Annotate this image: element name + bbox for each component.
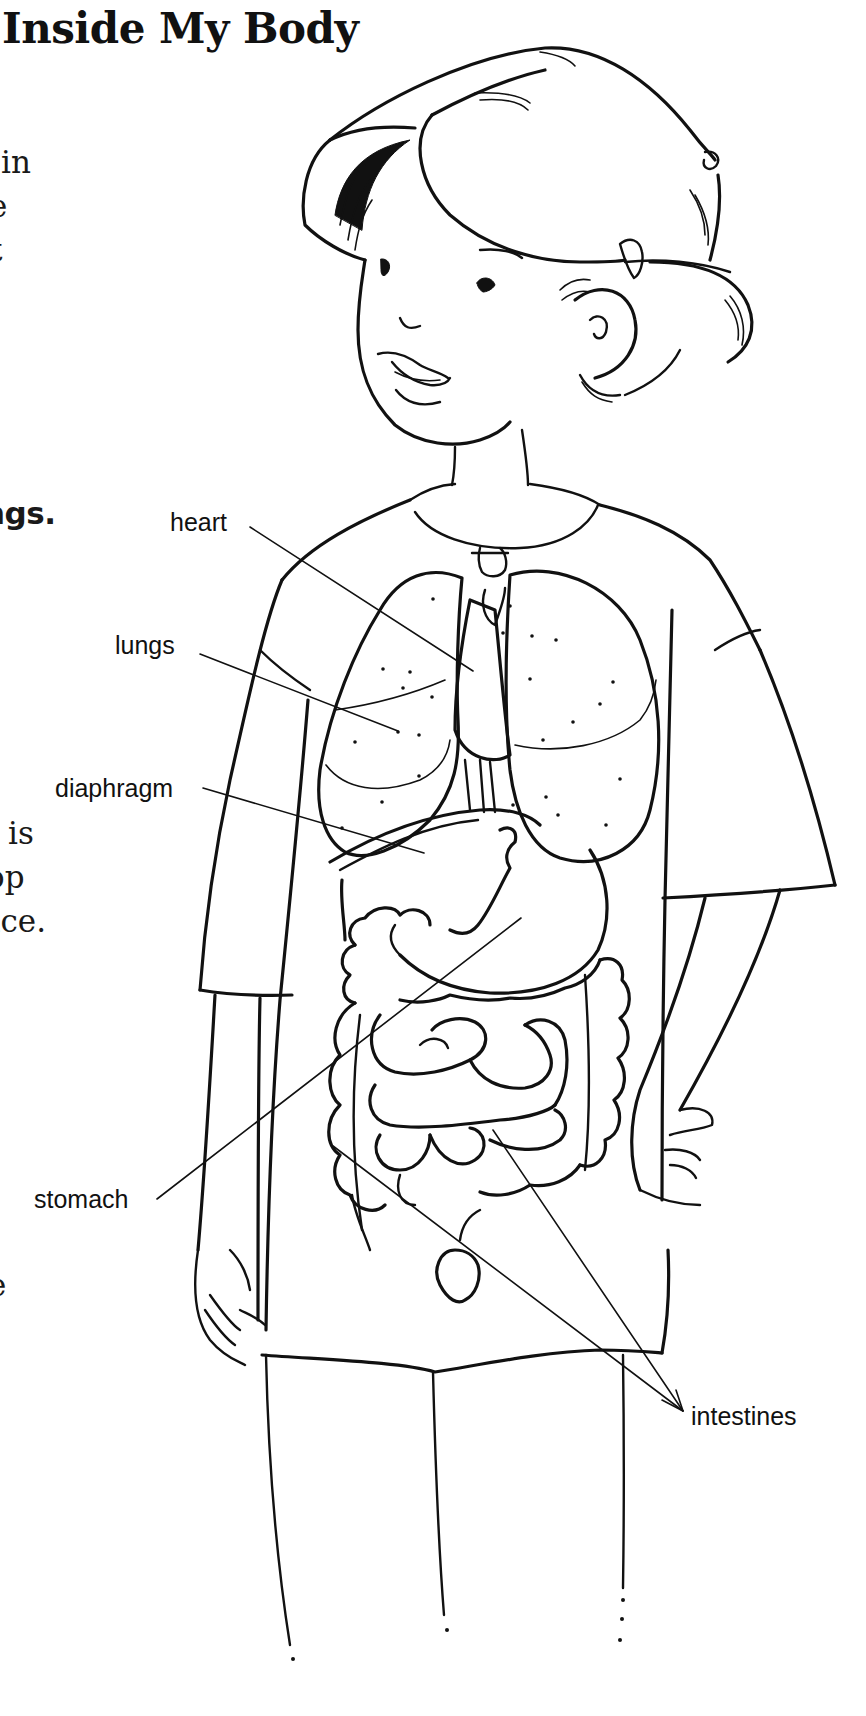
vessel — [480, 760, 484, 812]
left-thumb — [240, 1310, 265, 1325]
organs-drawing — [319, 548, 659, 1302]
leg-right-outer — [623, 1355, 624, 1588]
colon-inner-line — [585, 975, 589, 1170]
vessel — [490, 762, 495, 812]
rectum — [460, 1210, 480, 1240]
right-hand-bottom — [640, 1190, 700, 1205]
lung-left-lobe-line — [326, 740, 450, 788]
left-wrist — [230, 1250, 250, 1290]
hair-back — [625, 350, 680, 395]
shirt-right-bottom — [662, 1250, 669, 1353]
head-drawing — [303, 48, 752, 485]
shoulder-right — [600, 505, 760, 650]
colon-left-scallop — [342, 945, 355, 1003]
chin-line — [396, 390, 440, 404]
bangs-outline — [420, 115, 625, 262]
hair-top-outline — [330, 48, 715, 160]
left-arm-outer — [198, 995, 215, 1250]
hair-hatch — [560, 279, 590, 290]
ear-inner — [590, 316, 607, 338]
leader-heart — [250, 527, 473, 671]
colon-sigmoid — [480, 1165, 580, 1195]
sleeve-left-seam — [260, 650, 310, 690]
right-finger — [665, 1149, 700, 1160]
neck-left — [452, 447, 455, 485]
leg-dot — [445, 1628, 449, 1632]
small-intestine-loop — [525, 1020, 567, 1105]
leader-lungs — [200, 654, 398, 731]
bladder — [437, 1250, 479, 1302]
right-arm-inner — [632, 898, 705, 1190]
small-intestine-loop — [430, 1128, 484, 1164]
lung-left — [319, 573, 462, 856]
small-intestine-coil — [420, 1039, 448, 1048]
eye-left-icon — [381, 259, 390, 276]
heart — [455, 600, 510, 760]
legs-drawing — [266, 1355, 625, 1661]
sleeve-right-outline — [760, 650, 835, 885]
small-intestine-loop — [376, 1135, 430, 1170]
hair-hatch — [480, 99, 528, 110]
left-arm-inner — [258, 998, 260, 1320]
leg-dot — [620, 1617, 624, 1621]
shoulder-left — [282, 500, 410, 580]
torso-left — [266, 700, 308, 1330]
leader-diaphragm — [203, 788, 424, 853]
vessel — [465, 760, 470, 810]
right-arm-outer — [680, 890, 780, 1110]
sleeve-right-hem — [663, 885, 835, 898]
leg-dot — [621, 1598, 625, 1602]
ponytail-outline — [650, 262, 752, 362]
collar-right — [530, 484, 600, 505]
colon-transverse — [400, 960, 600, 1002]
small-intestine-loop — [372, 1015, 486, 1074]
sleeve-left-outline — [200, 580, 282, 990]
leg-dot — [291, 1657, 295, 1661]
leg-dot — [618, 1638, 622, 1642]
stomach-top — [450, 828, 516, 933]
right-finger — [670, 1165, 696, 1178]
shirt-hem — [262, 1350, 662, 1372]
hair-hatch — [540, 52, 575, 66]
nose — [400, 318, 420, 328]
collar — [415, 505, 598, 548]
body-illustration — [0, 0, 866, 1716]
small-intestine-loop — [370, 1085, 555, 1127]
small-intestine-loop — [470, 1025, 551, 1088]
collar-left — [410, 484, 455, 500]
leg-inner — [433, 1372, 444, 1615]
liver-left — [342, 880, 345, 940]
small-intestine-coil — [398, 1175, 415, 1205]
lung-texture-dots — [340, 597, 622, 830]
hair-right-outline — [710, 175, 720, 260]
eye-right-icon — [477, 278, 495, 292]
neck-right — [522, 430, 528, 485]
shirt-drawing — [200, 484, 835, 1372]
leader-intestines-2 — [493, 1130, 683, 1411]
worksheet-page: Inside My Body in e t t. ngs. is op ace.… — [0, 0, 866, 1716]
hair-shadow-left — [335, 140, 410, 230]
stomach-curve — [391, 925, 400, 955]
lung-left-lobe-line — [335, 680, 445, 710]
right-hand — [670, 1108, 712, 1135]
mouth-upper — [378, 352, 448, 378]
hair-hatch — [475, 93, 530, 103]
torso-right — [662, 610, 672, 1200]
leg-left-outer — [266, 1355, 290, 1645]
lung-right-lobe-line — [515, 680, 656, 749]
leader-lines — [157, 527, 683, 1411]
leader-intestines-1 — [333, 1146, 683, 1411]
